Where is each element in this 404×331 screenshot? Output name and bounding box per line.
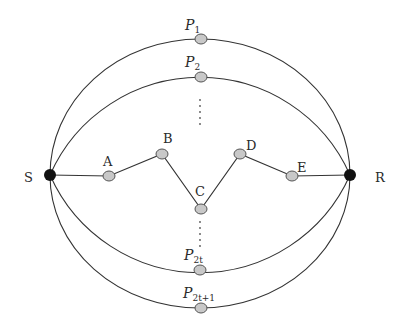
relay-nodes	[103, 34, 298, 313]
node-p2t	[194, 265, 206, 275]
ellipsis-dots	[199, 99, 201, 247]
label-p2t1: P2t+1	[182, 285, 215, 303]
label-c: C	[195, 184, 205, 199]
node-b	[156, 149, 168, 159]
path-p1-edge	[50, 39, 350, 175]
node-p2	[195, 72, 207, 82]
label-e: E	[297, 160, 307, 175]
label-b: B	[163, 131, 173, 146]
label-d: D	[246, 138, 256, 153]
node-source	[44, 169, 56, 181]
node-p2t1	[195, 303, 207, 313]
node-d	[234, 149, 246, 159]
label-p2: P2	[184, 54, 200, 72]
node-c	[195, 204, 207, 214]
multipath-diagram: S R A B C D E P1 P2 P2t P2t+1	[0, 0, 404, 331]
node-p1	[195, 34, 207, 44]
label-receiver: R	[375, 170, 386, 185]
label-a: A	[102, 154, 113, 169]
node-receiver	[344, 169, 356, 181]
label-p1: P1	[184, 17, 200, 35]
node-a	[103, 171, 115, 181]
label-p2t: P2t	[183, 247, 203, 265]
label-source: S	[24, 170, 33, 185]
endpoint-nodes	[44, 169, 356, 181]
